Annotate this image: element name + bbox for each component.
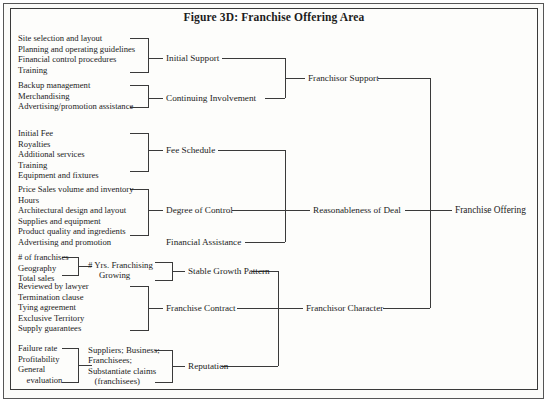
leaf-group-stable-growth: # of franchisesGeographyTotal sales	[18, 252, 69, 284]
node-financial-assistance: Financial Assistance	[166, 237, 241, 247]
leaf-item: Financial control procedures	[18, 54, 116, 64]
node-fee-schedule: Fee Schedule	[166, 145, 215, 155]
leaf-item: Profitability	[18, 354, 60, 364]
node-degree-of-control: Degree of Control	[166, 205, 233, 215]
leaf-item: Supplies and equipment	[18, 216, 101, 226]
leaf-item: Exclusive Territory	[18, 313, 84, 323]
leaf-item: Reviewed by lawyer	[18, 281, 89, 291]
node-franchisor-support: Franchisor Support	[308, 73, 379, 83]
leaf-item: Training	[18, 65, 47, 75]
leaf-item: Hours	[18, 195, 39, 205]
leaf-item: evaluation	[18, 375, 62, 385]
node-continuing-involvement: Continuing Involvement	[166, 93, 256, 103]
leaf-item: Planning and operating guidelines	[18, 44, 135, 54]
leaf-item: General	[18, 364, 45, 374]
leaf-item: Price Sales volume and inventory	[18, 184, 134, 194]
node-reasonableness-of-deal: Reasonableness of Deal	[313, 205, 401, 215]
node-franchise-contract: Franchise Contract	[166, 303, 236, 313]
leaf-item: Product quality and ingredients	[18, 226, 126, 236]
leaf-item: Royalties	[18, 139, 50, 149]
node-franchise-offering-root: Franchise Offering	[455, 205, 526, 215]
leaf-group-continuing-involvement: Backup managementMerchandisingAdvertisin…	[18, 80, 133, 112]
mid-label-reputation-sources: Suppliers; Business; Franchisees; Substa…	[88, 345, 160, 387]
leaf-group-initial-support: Site selection and layoutPlanning and op…	[18, 33, 135, 75]
leaf-item: Tying agreement	[18, 302, 76, 312]
leaf-item: Additional services	[18, 149, 85, 159]
leaf-item: Advertising and promotion	[18, 237, 111, 247]
node-initial-support: Initial Support	[166, 53, 219, 63]
leaf-group-franchise-contract: Reviewed by lawyerTermination clauseTyin…	[18, 281, 89, 334]
node-franchisor-character: Franchisor Character	[306, 303, 383, 313]
leaf-item: Failure rate	[18, 343, 57, 353]
leaf-group-degree-of-control: Price Sales volume and inventoryHoursArc…	[18, 184, 134, 248]
leaf-item: Architectural design and layout	[18, 205, 126, 215]
leaf-item: Merchandising	[18, 91, 70, 101]
leaf-item: Initial Fee	[18, 128, 53, 138]
leaf-item: Geography	[18, 263, 56, 273]
leaf-item: Termination clause	[18, 292, 84, 302]
leaf-group-reputation: Failure rateProfitabilityGeneral evaluat…	[18, 343, 62, 385]
figure-page: Figure 3D: Franchise Offering Area	[0, 0, 548, 403]
leaf-item: Training	[18, 160, 47, 170]
mid-label-years-franchising: # Yrs. Franchising Growing	[88, 260, 153, 281]
leaf-item: Backup management	[18, 80, 90, 90]
diagram-canvas: Figure 3D: Franchise Offering Area	[0, 0, 548, 403]
leaf-group-fee-schedule: Initial FeeRoyaltiesAdditional servicesT…	[18, 128, 99, 181]
leaf-item: # of franchises	[18, 252, 69, 262]
figure-title: Figure 3D: Franchise Offering Area	[0, 11, 548, 23]
leaf-item: Site selection and layout	[18, 33, 102, 43]
node-stable-growth-pattern: Stable Growth Pattern	[188, 266, 270, 276]
leaf-item: Advertising/promotion assistance	[18, 101, 133, 111]
leaf-item: Supply guarantees	[18, 323, 81, 333]
node-reputation: Reputation	[188, 361, 228, 371]
leaf-item: Equipment and fixtures	[18, 170, 99, 180]
